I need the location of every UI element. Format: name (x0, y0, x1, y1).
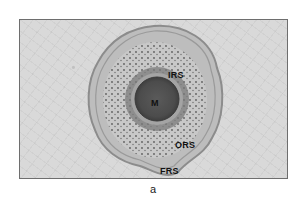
label-ors: ORS (175, 140, 195, 150)
micrograph-panel: IRS M ORS FRS (19, 19, 288, 179)
panel-caption: a (150, 183, 156, 195)
label-medulla: M (151, 98, 159, 108)
label-frs: FRS (160, 166, 179, 176)
label-irs: IRS (168, 70, 184, 80)
